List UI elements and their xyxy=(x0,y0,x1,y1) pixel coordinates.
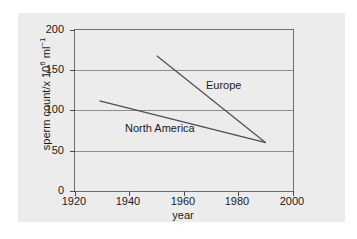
series-lines xyxy=(75,30,293,191)
xtick-label-1940: 1940 xyxy=(108,196,148,207)
xtick-label-2000: 2000 xyxy=(272,196,312,207)
xtick-label-1920: 1920 xyxy=(54,196,94,207)
y-axis-title-unit: ml xyxy=(40,47,52,62)
xtick-label-1960: 1960 xyxy=(163,196,203,207)
y-axis-title-unit-exponent: −1 xyxy=(38,38,47,47)
y-axis-title-main: sperm count/x 10 xyxy=(40,66,52,150)
y-axis-title-exponent: 6 xyxy=(38,61,47,65)
series-label-north-america: North America xyxy=(125,123,195,134)
series-label-europe: Europe xyxy=(206,80,241,91)
figure-panel: Europe North America 200 150 100 50 0 19… xyxy=(18,13,345,222)
x-axis-title: year xyxy=(74,209,292,221)
plot-area: Europe North America xyxy=(74,29,294,192)
y-axis-title: sperm count/x 106 ml−1 xyxy=(38,19,52,169)
xtick-label-1980: 1980 xyxy=(217,196,257,207)
ytick-label-0: 0 xyxy=(18,185,64,196)
